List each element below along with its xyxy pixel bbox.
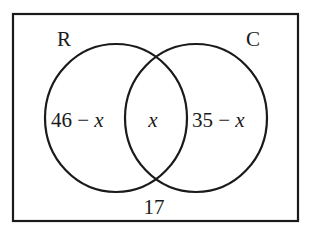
right-only-number: 35 − bbox=[192, 108, 235, 132]
intersection-label: x bbox=[147, 108, 158, 132]
right-only-region-label: 35 − x bbox=[192, 108, 245, 132]
left-only-region-label: 46 − x bbox=[51, 108, 104, 132]
left-only-number: 46 − bbox=[51, 108, 94, 132]
set-c-label: C bbox=[246, 27, 260, 51]
set-r-label: R bbox=[57, 27, 71, 51]
left-only-variable: x bbox=[93, 108, 104, 132]
right-only-variable: x bbox=[234, 108, 245, 132]
outside-region-label: 17 bbox=[144, 195, 165, 219]
venn-diagram: R C 46 − x x 35 − x 17 bbox=[0, 0, 311, 233]
